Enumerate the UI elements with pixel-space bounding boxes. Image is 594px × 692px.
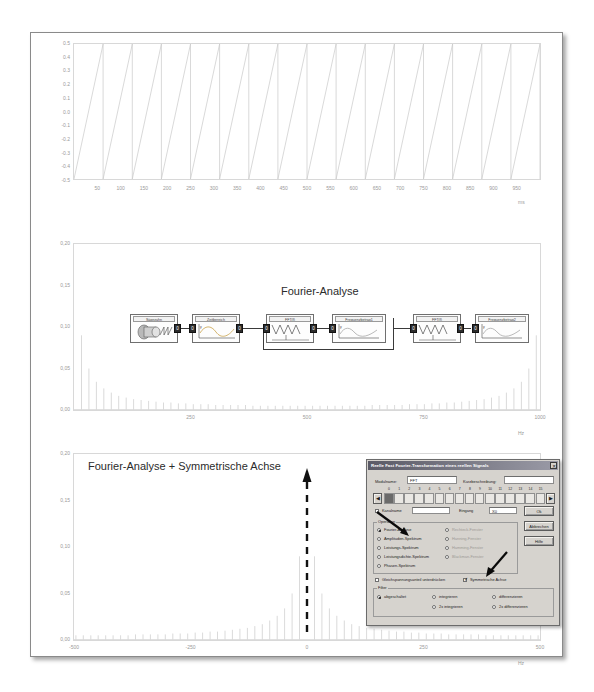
spectrum-icon	[416, 323, 460, 342]
spectrum-icon	[269, 323, 313, 342]
filter-radio-0[interactable]	[377, 595, 381, 599]
window-radio-3[interactable]	[445, 555, 449, 559]
chart-1-plot-area	[73, 43, 541, 180]
block-frequenzbetrag-2-port-in[interactable]: 0	[472, 324, 479, 333]
operation-group-title: Operation	[377, 519, 396, 524]
x-tick-label: 650	[367, 185, 387, 191]
operation-radio-0[interactable]	[377, 528, 381, 532]
close-icon[interactable]: ✕	[550, 462, 557, 469]
filter-group	[373, 588, 554, 617]
block-saegezahn-label: Sägezahn	[133, 316, 175, 322]
operation-radio-3[interactable]	[377, 555, 381, 559]
y-tick-label: 0.4	[45, 54, 70, 60]
block-fft-2-port-out[interactable]: 0	[457, 324, 464, 333]
window-radio-1[interactable]	[445, 537, 449, 541]
y-tick-label: -0.4	[45, 163, 70, 169]
channel-cell-3[interactable]	[414, 493, 424, 504]
filter-label-1: integrieren	[439, 594, 457, 599]
block-frequenzbetrag-1-port-in[interactable]: 0	[329, 324, 336, 333]
diagram-title: Fourier-Analyse	[281, 285, 359, 297]
x-tick-label: 300	[204, 185, 224, 191]
filter-radio-1[interactable]	[432, 595, 436, 599]
cancel-button[interactable]: Abbrechen	[524, 521, 554, 531]
channel-index-0: 0	[384, 487, 394, 491]
chart-1-x-unit: ms	[518, 199, 525, 205]
slider-next-button[interactable]: ▶	[546, 493, 555, 504]
symmetric-axis-checkbox[interactable]	[463, 578, 467, 582]
filter-radio-2[interactable]	[492, 595, 496, 599]
filter-radio-4[interactable]	[492, 605, 496, 609]
channel-cell-5[interactable]	[435, 493, 445, 504]
channel-cell-9[interactable]	[475, 493, 485, 504]
y-tick-label: 0,10	[43, 323, 70, 329]
wire-4	[393, 328, 410, 329]
channel-cell-13[interactable]	[515, 493, 525, 504]
kanalname-checkbox[interactable]	[375, 509, 379, 513]
dialog-titlebar: Reelle Fast Fourier-Transformation eines…	[368, 461, 558, 470]
y-tick-label: 0,15	[43, 282, 70, 288]
window-radio-0[interactable]	[445, 528, 449, 532]
block-fft-2[interactable]: FFT(f)	[413, 314, 461, 343]
operation-label-4: Phasen-Spektrum	[384, 563, 415, 568]
block-fft-2-port-in[interactable]: 0	[410, 324, 417, 333]
block-fft-1-port-in[interactable]: 0	[263, 324, 270, 333]
channel-cell-1[interactable]	[394, 493, 404, 504]
block-fft-1-label: FFT(f)	[269, 316, 311, 322]
y-tick-label: 0.2	[45, 81, 70, 87]
operation-radio-4[interactable]	[377, 564, 381, 568]
eingang-input[interactable]: X0	[489, 507, 517, 514]
y-tick-label: 0,15	[43, 497, 70, 503]
x-tick-label: 1000	[528, 414, 552, 420]
channel-cell-11[interactable]	[495, 493, 505, 504]
channel-cell-15[interactable]	[536, 493, 546, 504]
block-frequenzbetrag-1[interactable]: Frequenzbetrag1 y	[332, 314, 386, 343]
channel-cell-2[interactable]	[404, 493, 414, 504]
x-tick-label: 200	[157, 185, 177, 191]
channel-index-13: 13	[515, 487, 525, 491]
kanalname-input[interactable]	[412, 507, 450, 514]
help-button[interactable]: Hilfe	[524, 536, 554, 546]
symmetry-axis-arrow	[303, 468, 312, 632]
window-radio-2[interactable]	[445, 546, 449, 550]
kurzbeschreibung-input[interactable]	[504, 476, 554, 484]
block-zeitbereich-port-out[interactable]: 0	[236, 324, 243, 333]
kurzbeschreibung-label: Kurzbeschreibung:	[463, 479, 496, 484]
operation-radio-1[interactable]	[377, 537, 381, 541]
ok-button[interactable]: Ok	[524, 506, 554, 516]
channel-index-7: 7	[455, 487, 465, 491]
x-tick-label: 600	[344, 185, 364, 191]
channel-cell-7[interactable]	[455, 493, 465, 504]
modulname-input[interactable]: FFT	[407, 476, 457, 484]
modulname-label: Modulname:	[375, 479, 397, 484]
block-frequenzbetrag-2[interactable]: Frequenzbetrag2 y	[475, 314, 529, 343]
filter-radio-3[interactable]	[432, 605, 436, 609]
operation-radio-2[interactable]	[377, 546, 381, 550]
channel-cell-6[interactable]	[445, 493, 455, 504]
block-fft-1[interactable]: FFT(f)	[266, 314, 314, 343]
chart-1-svg	[74, 44, 540, 179]
fft-settings-dialog[interactable]: Reelle Fast Fourier-Transformation eines…	[366, 459, 560, 626]
block-zeitbereich[interactable]: Zeitbereich y	[192, 314, 240, 343]
channel-cell-12[interactable]	[505, 493, 515, 504]
channel-cell-8[interactable]	[465, 493, 475, 504]
block-saegezahn[interactable]: Sägezahn	[130, 314, 178, 343]
channel-cell-0[interactable]	[384, 493, 394, 504]
block-zeitbereich-port-in[interactable]: 0	[189, 324, 196, 333]
x-tick-label: 150	[134, 185, 154, 191]
y-tick-label: 0,00	[43, 406, 70, 412]
x-tick-label: 350	[227, 185, 247, 191]
filter-label-0: abgeschaltet	[384, 594, 406, 599]
x-tick-label: 750	[414, 185, 434, 191]
x-tick-label: 450	[274, 185, 294, 191]
dc-suppress-checkbox[interactable]	[375, 578, 379, 582]
channel-index-11: 11	[495, 487, 505, 491]
block-fft-1-port-out[interactable]: 0	[310, 324, 317, 333]
generator-icon	[133, 323, 177, 341]
channel-cell-14[interactable]	[525, 493, 535, 504]
channel-cell-10[interactable]	[485, 493, 495, 504]
block-frequenzbetrag-2-label: Frequenzbetrag2	[478, 316, 526, 322]
slider-prev-button[interactable]: ◀	[373, 493, 382, 504]
channel-cell-4[interactable]	[424, 493, 434, 504]
chart-1-sawtooth: -0.5-0.4-0.3-0.2-0.10.00.10.20.30.40.5 5…	[31, 33, 564, 208]
block-saegezahn-port-out[interactable]: 0	[174, 324, 181, 333]
